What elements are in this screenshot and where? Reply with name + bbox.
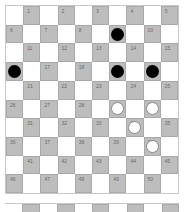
strip-square bbox=[40, 204, 57, 212]
square-number: 21 bbox=[27, 84, 33, 89]
square-6[interactable]: 6 bbox=[6, 25, 23, 44]
light-square bbox=[58, 100, 75, 119]
light-square bbox=[6, 43, 23, 62]
square-46[interactable]: 46 bbox=[6, 174, 23, 193]
light-square bbox=[161, 174, 178, 193]
square-32[interactable]: 32 bbox=[58, 118, 75, 137]
square-45[interactable]: 45 bbox=[161, 156, 178, 175]
square-number: 35 bbox=[165, 121, 171, 126]
square-14[interactable]: 14 bbox=[126, 43, 143, 62]
light-square bbox=[58, 174, 75, 193]
light-square bbox=[109, 81, 126, 100]
square-number: 12 bbox=[62, 46, 68, 51]
light-square bbox=[40, 81, 57, 100]
square-47[interactable]: 47 bbox=[40, 174, 57, 193]
square-9[interactable]: 9 bbox=[109, 25, 126, 44]
light-square bbox=[58, 137, 75, 156]
square-35[interactable]: 35 bbox=[161, 118, 178, 137]
square-number: 49 bbox=[113, 177, 119, 182]
square-23[interactable]: 23 bbox=[92, 81, 109, 100]
square-number: 39 bbox=[113, 140, 119, 145]
light-square bbox=[144, 156, 161, 175]
white-piece-icon[interactable] bbox=[146, 102, 159, 115]
square-16[interactable]: 16 bbox=[6, 62, 23, 81]
square-48[interactable]: 48 bbox=[75, 174, 92, 193]
square-25[interactable]: 25 bbox=[161, 81, 178, 100]
white-piece-icon[interactable] bbox=[111, 102, 124, 115]
light-square bbox=[40, 156, 57, 175]
square-42[interactable]: 42 bbox=[58, 156, 75, 175]
square-31[interactable]: 31 bbox=[23, 118, 40, 137]
square-40[interactable]: 40 bbox=[144, 137, 161, 156]
black-piece-icon[interactable] bbox=[111, 28, 124, 41]
black-piece-icon[interactable] bbox=[8, 65, 21, 78]
light-square bbox=[75, 156, 92, 175]
square-1[interactable]: 1 bbox=[23, 6, 40, 25]
light-square bbox=[6, 156, 23, 175]
square-29[interactable]: 29 bbox=[109, 100, 126, 119]
white-piece-icon[interactable] bbox=[146, 140, 159, 153]
square-43[interactable]: 43 bbox=[92, 156, 109, 175]
square-number: 1 bbox=[27, 9, 30, 14]
square-30[interactable]: 30 bbox=[144, 100, 161, 119]
square-26[interactable]: 26 bbox=[6, 100, 23, 119]
light-square bbox=[144, 81, 161, 100]
light-square bbox=[6, 118, 23, 137]
square-12[interactable]: 12 bbox=[58, 43, 75, 62]
square-number: 46 bbox=[10, 177, 16, 182]
square-5[interactable]: 5 bbox=[161, 6, 178, 25]
square-41[interactable]: 41 bbox=[23, 156, 40, 175]
square-39[interactable]: 39 bbox=[109, 137, 126, 156]
square-21[interactable]: 21 bbox=[23, 81, 40, 100]
square-number: 18 bbox=[79, 65, 85, 70]
square-24[interactable]: 24 bbox=[126, 81, 143, 100]
square-27[interactable]: 27 bbox=[40, 100, 57, 119]
square-13[interactable]: 13 bbox=[92, 43, 109, 62]
light-square bbox=[109, 43, 126, 62]
square-number: 43 bbox=[96, 159, 102, 164]
square-17[interactable]: 17 bbox=[40, 62, 57, 81]
square-28[interactable]: 28 bbox=[75, 100, 92, 119]
square-11[interactable]: 11 bbox=[23, 43, 40, 62]
square-number: 13 bbox=[96, 46, 102, 51]
black-piece-icon[interactable] bbox=[146, 65, 159, 78]
square-number: 38 bbox=[79, 140, 85, 145]
strip-square bbox=[144, 204, 161, 212]
square-number: 24 bbox=[130, 84, 136, 89]
square-20[interactable]: 20 bbox=[144, 62, 161, 81]
light-square bbox=[92, 25, 109, 44]
square-number: 41 bbox=[27, 159, 33, 164]
next-board-strip bbox=[5, 203, 179, 212]
square-19[interactable]: 19 bbox=[109, 62, 126, 81]
square-4[interactable]: 4 bbox=[126, 6, 143, 25]
square-number: 33 bbox=[96, 121, 102, 126]
square-33[interactable]: 33 bbox=[92, 118, 109, 137]
square-22[interactable]: 22 bbox=[58, 81, 75, 100]
light-square bbox=[23, 137, 40, 156]
square-8[interactable]: 8 bbox=[75, 25, 92, 44]
draughts-board: 1234567891011121314151617181920212223242… bbox=[5, 5, 179, 194]
square-44[interactable]: 44 bbox=[126, 156, 143, 175]
square-7[interactable]: 7 bbox=[40, 25, 57, 44]
light-square bbox=[40, 6, 57, 25]
square-34[interactable]: 34 bbox=[126, 118, 143, 137]
black-piece-icon[interactable] bbox=[111, 65, 124, 78]
square-36[interactable]: 36 bbox=[6, 137, 23, 156]
light-square bbox=[23, 62, 40, 81]
square-18[interactable]: 18 bbox=[75, 62, 92, 81]
light-square bbox=[58, 62, 75, 81]
square-number: 15 bbox=[165, 46, 171, 51]
square-38[interactable]: 38 bbox=[75, 137, 92, 156]
white-piece-icon[interactable] bbox=[128, 121, 141, 134]
strip-square bbox=[22, 204, 39, 212]
light-square bbox=[92, 100, 109, 119]
square-15[interactable]: 15 bbox=[161, 43, 178, 62]
square-50[interactable]: 50 bbox=[144, 174, 161, 193]
light-square bbox=[161, 137, 178, 156]
square-2[interactable]: 2 bbox=[58, 6, 75, 25]
square-3[interactable]: 3 bbox=[92, 6, 109, 25]
square-37[interactable]: 37 bbox=[40, 137, 57, 156]
square-49[interactable]: 49 bbox=[109, 174, 126, 193]
square-10[interactable]: 10 bbox=[144, 25, 161, 44]
light-square bbox=[144, 118, 161, 137]
